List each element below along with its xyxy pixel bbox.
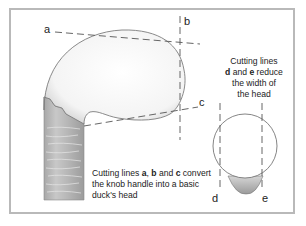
neck-front-view: [228, 176, 263, 194]
knob-head-side-view: [44, 30, 185, 124]
label-c: c: [199, 97, 205, 108]
label-a: a: [44, 24, 50, 35]
label-b: b: [184, 16, 190, 27]
caption-front-view: Cutting lines d and e reduce the width o…: [218, 56, 290, 100]
label-e: e: [262, 193, 268, 204]
diagram-canvas: a b c d e Cutting lines a, b and c conve…: [0, 0, 306, 226]
caption-side-view: Cutting lines a, b and c convert the kno…: [92, 168, 222, 201]
knob-front-view: [213, 114, 277, 194]
